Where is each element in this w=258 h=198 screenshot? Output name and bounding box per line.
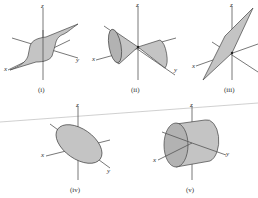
surfaces-figure: z y x (i) z x (ii) z x y (iii) z x y xyxy=(0,0,258,198)
plane xyxy=(203,8,253,80)
panel-v: z x y (v) xyxy=(152,101,230,194)
caption-i: (i) xyxy=(38,86,45,94)
cylinder-face xyxy=(164,123,188,167)
panel-i: z y x (i) xyxy=(3,2,80,94)
z-label: z xyxy=(135,1,139,9)
y-label: y xyxy=(225,150,230,158)
x-label: x xyxy=(3,65,8,73)
x-label: x xyxy=(91,55,96,63)
y-label: y xyxy=(75,56,80,64)
x-label: x xyxy=(152,156,157,164)
z-label: z xyxy=(40,2,44,10)
y-label: y xyxy=(173,66,178,74)
panel-ii: z x (ii) xyxy=(91,1,176,94)
cone-right xyxy=(138,40,167,68)
caption-iii: (iii) xyxy=(224,86,235,94)
panel-iii: z x y (iii) xyxy=(173,1,258,94)
caption-v: (v) xyxy=(186,186,195,194)
z-label: z xyxy=(229,1,233,9)
ellipse-disk xyxy=(49,117,109,171)
caption-ii: (ii) xyxy=(131,86,140,94)
y-label: y xyxy=(106,167,111,175)
x-label: x xyxy=(191,62,196,70)
z-label: z xyxy=(189,101,193,109)
x-label: x xyxy=(40,151,45,159)
z-label: z xyxy=(75,101,79,109)
caption-iv: (iv) xyxy=(70,186,81,194)
parabolic-sheet xyxy=(10,24,78,70)
divider-line xyxy=(0,103,258,122)
